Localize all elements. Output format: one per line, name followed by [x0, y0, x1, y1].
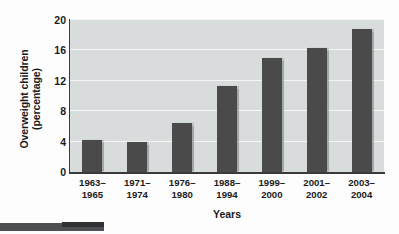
bar-2001–2002[interactable] [307, 48, 327, 172]
x-tick-line-2: 2000 [259, 189, 286, 201]
bar-1988–1994[interactable] [217, 86, 237, 172]
bar-slot [294, 20, 339, 172]
x-tick-line-2: 1965 [79, 189, 106, 201]
x-tick-label-1999–2000: 1999–2000 [259, 177, 286, 200]
bar-slot [249, 20, 294, 172]
x-tick-line-2: 1974 [124, 189, 151, 201]
chart-figure: Overweight children (percentage) 0481216… [0, 0, 399, 234]
bar-2003–2004[interactable] [352, 29, 372, 172]
bar-1963–1965[interactable] [82, 140, 102, 172]
x-tick-line-2: 1994 [214, 189, 241, 201]
bar-1971–1974[interactable] [127, 142, 147, 172]
x-tick-line-1: 1976– [169, 177, 196, 189]
x-tick-line-2: 2002 [303, 189, 330, 201]
x-tick-label-1963–1965: 1963–1965 [79, 177, 106, 200]
x-tick-label-2001–2002: 2001–2002 [303, 177, 330, 200]
y-tick-label-8: 8 [40, 105, 66, 117]
y-axis-tick-labels: 048121620 [40, 14, 66, 174]
x-axis-tick-labels: 1963–19651971–19741976–19801988–19941999… [70, 177, 384, 207]
x-tick-label-1971–1974: 1971–1974 [124, 177, 151, 200]
x-tick-label-2003–2004: 2003–2004 [348, 177, 375, 200]
x-tick-line-1: 2001– [303, 177, 330, 189]
bars-series [70, 20, 384, 172]
y-tick-label-20: 20 [40, 14, 66, 26]
x-tick-line-2: 2004 [348, 189, 375, 201]
x-tick-label-1976–1980: 1976–1980 [169, 177, 196, 200]
x-tick-label-1988–1994: 1988–1994 [214, 177, 241, 200]
bar-slot [70, 20, 115, 172]
bar-slot [115, 20, 160, 172]
y-tick-label-12: 12 [40, 75, 66, 87]
scan-edge-artifact-dark [62, 222, 104, 227]
x-tick-line-1: 1963– [79, 177, 106, 189]
x-tick-line-1: 2003– [348, 177, 375, 189]
x-tick-line-1: 1999– [259, 177, 286, 189]
bar-1999–2000[interactable] [262, 58, 282, 172]
bar-slot [339, 20, 384, 172]
x-tick-line-2: 1980 [169, 189, 196, 201]
x-axis-title: Years [70, 208, 384, 220]
bar-slot [160, 20, 205, 172]
x-tick-line-1: 1988– [214, 177, 241, 189]
x-tick-line-1: 1971– [124, 177, 151, 189]
y-tick-label-0: 0 [40, 166, 66, 178]
y-tick-label-4: 4 [40, 136, 66, 148]
x-axis-line [69, 172, 385, 174]
bar-1976–1980[interactable] [172, 123, 192, 172]
bar-slot [205, 20, 250, 172]
plot-area [70, 20, 384, 172]
y-tick-label-16: 16 [40, 44, 66, 56]
